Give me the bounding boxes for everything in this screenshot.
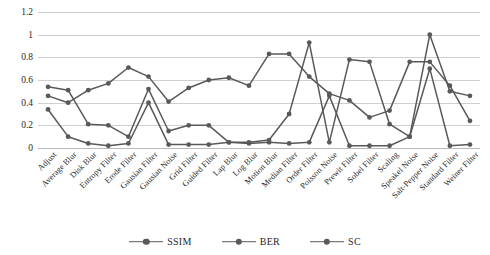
data-point	[247, 140, 252, 145]
data-point	[287, 141, 292, 146]
data-point	[347, 143, 352, 148]
data-point	[307, 40, 312, 45]
data-point	[186, 86, 191, 91]
series-layer	[38, 12, 480, 148]
data-point	[66, 100, 71, 105]
data-point	[447, 89, 452, 94]
y-axis-tick-label: 0	[28, 143, 33, 153]
data-point	[307, 140, 312, 145]
series-line	[48, 35, 470, 143]
legend-label: SC	[348, 236, 361, 247]
data-point	[166, 99, 171, 104]
y-axis-tick-label: 1.2	[21, 7, 33, 17]
data-point	[407, 134, 412, 139]
data-point	[86, 141, 91, 146]
data-point	[126, 134, 131, 139]
y-axis-tick-label: 0.4	[21, 98, 33, 108]
data-point	[287, 112, 292, 117]
data-point	[287, 52, 292, 57]
data-point	[186, 123, 191, 128]
data-point	[327, 140, 332, 145]
data-point	[367, 115, 372, 120]
data-point	[468, 118, 473, 123]
data-point	[46, 93, 51, 98]
chart-root: 00.20.40.60.811.2 AdjustAverage BlurDisk…	[0, 0, 490, 255]
data-point	[267, 52, 272, 57]
data-point	[66, 134, 71, 139]
data-point	[468, 142, 473, 147]
data-point	[327, 93, 332, 98]
data-point	[267, 138, 272, 143]
data-point	[427, 32, 432, 37]
data-point	[146, 74, 151, 79]
data-point	[166, 142, 171, 147]
data-point	[86, 122, 91, 127]
data-point	[247, 83, 252, 88]
data-point	[387, 108, 392, 113]
data-point	[468, 93, 473, 98]
legend-marker-icon	[310, 237, 344, 247]
data-point	[206, 123, 211, 128]
data-point	[226, 140, 231, 145]
data-point	[126, 65, 131, 70]
data-point	[367, 143, 372, 148]
data-point	[46, 84, 51, 89]
clipped-header-strip	[22, 0, 118, 7]
data-point	[427, 66, 432, 71]
series-line	[48, 54, 470, 121]
legend-label: SSIM	[167, 236, 192, 247]
x-axis-labels: AdjustAverage BlurDisk BlurEntropy Filte…	[38, 150, 480, 222]
y-axis-tick-label: 0.6	[21, 75, 33, 85]
data-point	[347, 57, 352, 62]
y-axis-tick-label: 1	[28, 30, 33, 40]
legend-marker-icon	[222, 237, 256, 247]
y-axis-tick-label: 0.2	[21, 120, 33, 130]
data-point	[46, 107, 51, 112]
data-point	[106, 143, 111, 148]
data-point	[407, 59, 412, 64]
data-point	[106, 123, 111, 128]
series-ssim	[46, 52, 473, 124]
legend-item[interactable]: SC	[310, 236, 361, 247]
data-point	[146, 87, 151, 92]
data-point	[427, 59, 432, 64]
data-point	[307, 74, 312, 79]
plot-area: 00.20.40.60.811.2	[38, 12, 480, 148]
series-sc	[46, 32, 473, 144]
data-point	[367, 59, 372, 64]
data-point	[86, 88, 91, 93]
data-point	[206, 78, 211, 83]
data-point	[387, 143, 392, 148]
data-point	[206, 142, 211, 147]
data-point	[387, 122, 392, 127]
data-point	[146, 100, 151, 105]
legend-item[interactable]: SSIM	[129, 236, 192, 247]
legend-marker-icon	[129, 237, 163, 247]
data-point	[106, 81, 111, 86]
data-point	[347, 98, 352, 103]
data-point	[126, 141, 131, 146]
data-point	[186, 142, 191, 147]
data-point	[166, 129, 171, 134]
data-point	[447, 143, 452, 148]
data-point	[226, 75, 231, 80]
data-point	[66, 88, 71, 93]
legend-item[interactable]: BER	[222, 236, 280, 247]
y-axis-tick-label: 0.8	[21, 52, 33, 62]
legend-label: BER	[260, 236, 280, 247]
chart-legend: SSIMBERSC	[0, 236, 490, 247]
